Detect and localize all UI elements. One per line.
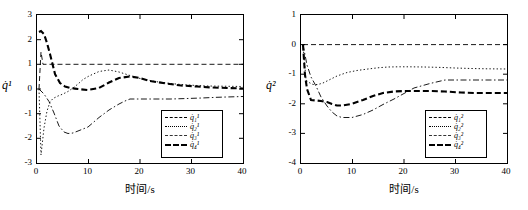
x-tick-right-30: 30 (445, 166, 465, 176)
legend-item-q3-left: q̇₃¹ (165, 131, 219, 140)
legend-label-q1-right: q̇₁² (454, 113, 463, 122)
x-tick-left-40: 40 (232, 166, 252, 176)
y-tick-right-m2: -2 (278, 98, 296, 108)
x-axis-label-right: 时间/s (364, 180, 444, 196)
figure-container: q̇¹ (0, 0, 528, 210)
y-tick-right-m3: -3 (278, 127, 296, 137)
y-tick-left-1: 1 (14, 58, 32, 68)
legend-swatch-q2-right (429, 126, 451, 127)
series-line-q1-left (39, 52, 243, 89)
x-tick-right-20: 20 (393, 166, 413, 176)
chart-panel-left: q̇¹ (0, 0, 264, 210)
legend-swatch-q4-left (165, 144, 187, 146)
legend-item-q2-right: q̇₂² (429, 122, 483, 131)
x-tick-left-10: 10 (78, 166, 98, 176)
legend-item-q4-left: q̇₄¹ (165, 140, 219, 149)
y-tick-left-m2: -2 (14, 132, 32, 142)
legend-right: q̇₁² q̇₂² q̇₃² q̇₄² (425, 110, 487, 158)
legend-label-q3-right: q̇₃² (454, 131, 463, 140)
x-tick-right-10: 10 (342, 166, 362, 176)
y-tick-right-1: 1 (278, 9, 296, 19)
legend-swatch-q2-left (165, 126, 187, 127)
legend-item-q2-left: q̇₂¹ (165, 122, 219, 131)
x-axis-label-left: 时间/s (100, 180, 180, 196)
legend-label-q4-right: q̇₄² (454, 140, 463, 149)
legend-swatch-q1-left (165, 117, 187, 118)
legend-item-q1-left: q̇₁¹ (165, 113, 219, 122)
legend-swatch-q3-right (429, 135, 451, 136)
legend-label-q2-right: q̇₂² (454, 122, 463, 131)
series-line-q4-left (39, 31, 243, 90)
y-tick-left-m1: -1 (14, 108, 32, 118)
legend-swatch-q4-right (429, 144, 451, 146)
legend-swatch-q1-right (429, 117, 451, 118)
series-line-q4-right (303, 45, 507, 106)
legend-label-q2-left: q̇₂¹ (190, 122, 199, 131)
legend-left: q̇₁¹ q̇₂¹ q̇₃¹ q̇₄¹ (161, 110, 223, 158)
y-axis-label-right: q̇² (266, 78, 276, 93)
legend-label-q4-left: q̇₄¹ (190, 140, 199, 149)
y-tick-right-m1: -1 (278, 68, 296, 78)
legend-label-q1-left: q̇₁¹ (190, 113, 199, 122)
y-axis-label-left: q̇¹ (2, 78, 12, 93)
legend-item-q3-right: q̇₃² (429, 131, 483, 140)
chart-panel-right: q̇² (264, 0, 528, 210)
legend-swatch-q3-left (165, 135, 187, 136)
y-tick-left-2: 2 (14, 34, 32, 44)
legend-label-q3-left: q̇₃¹ (190, 131, 199, 140)
y-tick-right-0: 0 (278, 39, 296, 49)
legend-item-q4-right: q̇₄² (429, 140, 483, 149)
x-tick-left-30: 30 (181, 166, 201, 176)
x-tick-left-0: 0 (26, 166, 46, 176)
legend-item-q1-right: q̇₁² (429, 113, 483, 122)
x-tick-left-20: 20 (129, 166, 149, 176)
x-tick-right-40: 40 (496, 166, 516, 176)
series-line-q2-right (303, 45, 507, 85)
y-tick-left-3: 3 (14, 9, 32, 19)
y-tick-left-0: 0 (14, 83, 32, 93)
x-tick-right-0: 0 (290, 166, 310, 176)
series-line-q3-right (303, 45, 507, 118)
